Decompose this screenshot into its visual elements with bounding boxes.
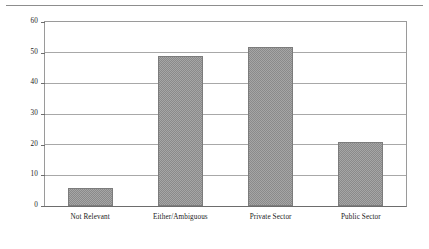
y-axis-tick-label: 30 (31, 110, 39, 117)
bar (248, 47, 293, 206)
y-tick-mark (41, 22, 45, 23)
x-axis-tick-label: Not Relevant (70, 214, 109, 221)
y-tick-mark (41, 206, 45, 207)
x-axis-tick-label: Either/Ambiguous (153, 214, 208, 221)
bar (158, 56, 203, 206)
x-axis-tick-label: Private Sector (250, 214, 292, 221)
bar (68, 188, 113, 206)
plot-area: 0102030405060 Not RelevantEither/Ambiguo… (44, 21, 407, 207)
gridline (45, 52, 406, 53)
x-axis-tick-label: Public Sector (341, 214, 381, 221)
y-axis-tick-label: 40 (31, 80, 39, 87)
y-tick-mark (41, 83, 45, 84)
y-axis-tick-label: 10 (31, 172, 39, 179)
y-tick-mark (41, 114, 45, 115)
gridline (45, 114, 406, 115)
y-axis-tick-label: 50 (31, 49, 39, 56)
bar-chart-figure: 0102030405060 Not RelevantEither/Ambiguo… (0, 0, 429, 249)
y-axis-tick-label: 0 (34, 202, 38, 209)
y-tick-mark (41, 145, 45, 146)
y-tick-mark (41, 53, 45, 54)
y-axis-tick-label: 60 (31, 18, 39, 25)
gridline (45, 83, 406, 84)
y-tick-mark (41, 175, 45, 176)
y-axis-tick-label: 20 (31, 141, 39, 148)
top-horizontal-rule (6, 5, 423, 6)
bar (338, 142, 383, 206)
